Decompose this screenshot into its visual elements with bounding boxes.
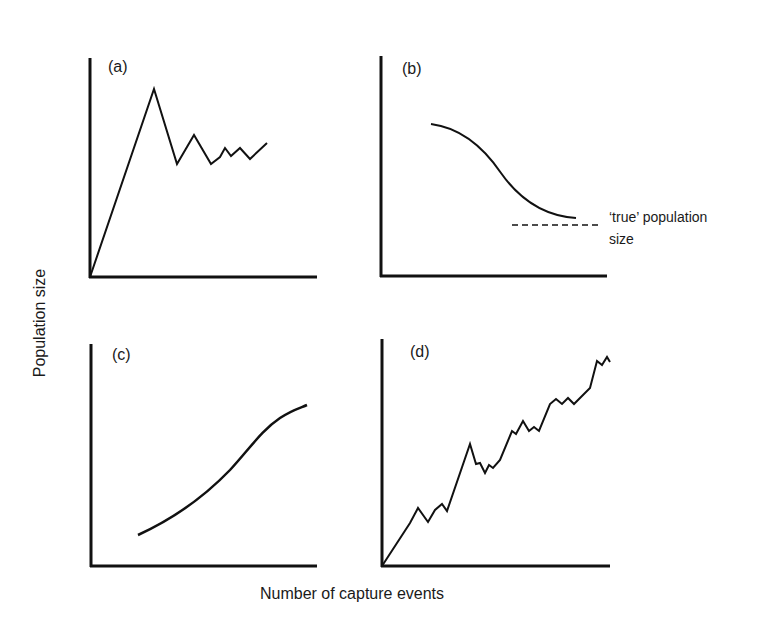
panel-b-curve [431,124,576,218]
figure-canvas [0,0,772,630]
annotation-line-1: ‘true’ population [609,206,707,228]
panel-a-line [90,89,267,277]
panel-c-label: (c) [112,346,131,364]
panel-d-label: (d) [410,343,430,361]
panel-b-label: (b) [402,60,422,78]
panel-d-line [382,357,610,566]
panel-c-curve [138,405,307,535]
panel-a-label: (a) [108,58,128,76]
panel-d [381,339,610,567]
annotation-line-2: size [609,228,707,250]
panel-a [89,58,317,278]
x-axis-label: Number of capture events [260,585,444,603]
y-axis-label: Population size [31,269,49,378]
panel-b [380,56,607,277]
true-population-annotation: ‘true’ population size [609,206,707,250]
panel-c [90,344,317,567]
